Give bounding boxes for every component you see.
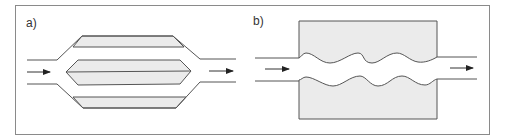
panel-a-label: a) xyxy=(26,16,37,30)
upper-block xyxy=(299,21,437,63)
lower-band xyxy=(73,97,186,108)
panel-a xyxy=(27,36,236,108)
lower-block xyxy=(299,76,437,119)
panel-b-label: b) xyxy=(253,14,264,28)
upper-band xyxy=(73,36,184,47)
panel-b xyxy=(255,21,477,119)
central-hexagon xyxy=(66,60,191,85)
